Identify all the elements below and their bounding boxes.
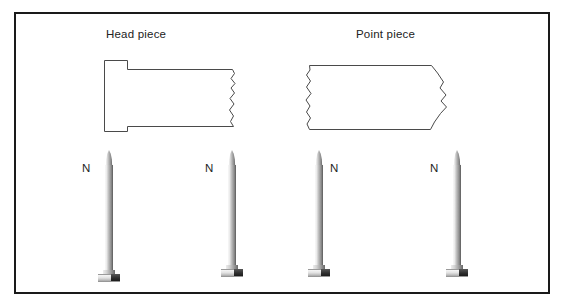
figure-border-frame: [14, 12, 550, 294]
nail-shaft: [105, 165, 113, 273]
nail-head-shadow: [459, 269, 468, 276]
nail-head-shadow: [321, 269, 330, 276]
nail-shaft: [453, 165, 461, 268]
point-piece-label: Point piece: [356, 28, 415, 40]
nail-head-shadow: [111, 274, 120, 281]
nail-head-shadow: [234, 269, 243, 276]
head-piece-label: Head piece: [106, 28, 166, 40]
figure-root: Head piece Point piece N N N: [0, 0, 566, 307]
nail-1-label: N: [82, 162, 90, 174]
nail-3-label: N: [330, 162, 338, 174]
nail-2-label: N: [205, 162, 213, 174]
nail-shaft: [315, 165, 323, 268]
nail-shaft: [228, 165, 236, 268]
nail-4-label: N: [430, 162, 438, 174]
